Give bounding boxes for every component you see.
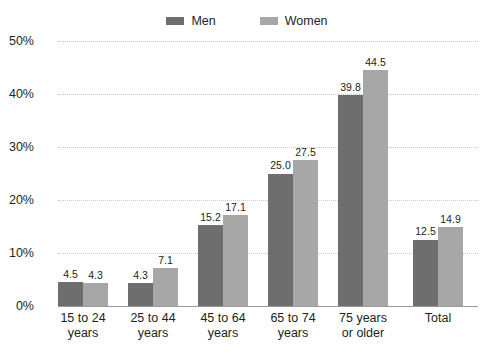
bar-women[interactable]: 14.9 <box>438 41 463 306</box>
y-tick-label: 50% <box>0 35 34 48</box>
x-axis-label-line: or older <box>320 326 406 341</box>
bar-group: 4.54.3 <box>58 41 108 306</box>
y-tick-label: 30% <box>0 141 34 154</box>
legend-swatch-icon <box>260 17 278 25</box>
bar-value-label: 25.0 <box>270 160 290 171</box>
y-tick-label: 40% <box>0 88 34 101</box>
bar-value-label: 4.3 <box>133 270 148 281</box>
bar-value-label: 12.5 <box>415 226 435 237</box>
bar-men[interactable]: 25.0 <box>268 41 293 306</box>
legend-label: Women <box>285 15 328 28</box>
bar-women[interactable]: 7.1 <box>153 41 178 306</box>
legend-entry-women[interactable]: Women <box>260 15 328 28</box>
bar-group: 15.217.1 <box>198 41 248 306</box>
chart-legend: MenWomen <box>0 12 494 30</box>
bar-value-label: 7.1 <box>158 255 173 266</box>
bar-rect[interactable] <box>438 227 463 306</box>
plot-area: 0%10%20%30%40%50% 4.54.34.37.115.217.125… <box>58 41 478 306</box>
bar-women[interactable]: 44.5 <box>363 41 388 306</box>
bar-rect[interactable] <box>153 268 178 306</box>
x-axis-labels: 15 to 24years25 to 44years45 to 64years6… <box>58 311 478 355</box>
bar-group: 39.844.5 <box>338 41 388 306</box>
bar-groups: 4.54.34.37.115.217.125.027.539.844.512.5… <box>58 41 478 306</box>
bar-value-label: 39.8 <box>340 82 360 93</box>
bar-value-label: 4.3 <box>88 270 103 281</box>
bar-group: 4.37.1 <box>128 41 178 306</box>
bar-group: 12.514.9 <box>413 41 463 306</box>
bar-men[interactable]: 4.3 <box>128 41 153 306</box>
bar-women[interactable]: 4.3 <box>83 41 108 306</box>
bar-rect[interactable] <box>198 225 223 306</box>
bar-rect[interactable] <box>128 283 153 306</box>
y-tick-label: 10% <box>0 247 34 260</box>
bar-men[interactable]: 39.8 <box>338 41 363 306</box>
bar-rect[interactable] <box>363 70 388 306</box>
bar-men[interactable]: 12.5 <box>413 41 438 306</box>
bar-rect[interactable] <box>293 160 318 306</box>
x-axis-label-line: 75 years <box>320 311 406 326</box>
bar-rect[interactable] <box>83 283 108 306</box>
bar-women[interactable]: 27.5 <box>293 41 318 306</box>
y-tick-label: 20% <box>0 194 34 207</box>
bar-rect[interactable] <box>223 215 248 306</box>
x-axis-label-line: Total <box>395 311 481 326</box>
bar-group: 25.027.5 <box>268 41 318 306</box>
bar-men[interactable]: 4.5 <box>58 41 83 306</box>
bar-men[interactable]: 15.2 <box>198 41 223 306</box>
axis-baseline <box>58 306 478 307</box>
legend-swatch-icon <box>166 17 184 25</box>
bar-rect[interactable] <box>413 240 438 306</box>
legend-label: Men <box>191 15 215 28</box>
bar-rect[interactable] <box>338 95 363 306</box>
bar-chart: MenWomen 0%10%20%30%40%50% 4.54.34.37.11… <box>0 0 494 355</box>
x-axis-label: 75 yearsor older <box>320 311 406 341</box>
bar-rect[interactable] <box>268 174 293 307</box>
legend-entry-men[interactable]: Men <box>166 15 215 28</box>
bar-rect[interactable] <box>58 282 83 306</box>
bar-value-label: 27.5 <box>295 147 315 158</box>
bar-value-label: 14.9 <box>440 214 460 225</box>
bar-women[interactable]: 17.1 <box>223 41 248 306</box>
bar-value-label: 4.5 <box>63 269 78 280</box>
bar-value-label: 44.5 <box>365 57 385 68</box>
bar-value-label: 15.2 <box>200 212 220 223</box>
bar-value-label: 17.1 <box>225 202 245 213</box>
y-tick-label: 0% <box>0 300 34 313</box>
x-axis-label: Total <box>395 311 481 326</box>
